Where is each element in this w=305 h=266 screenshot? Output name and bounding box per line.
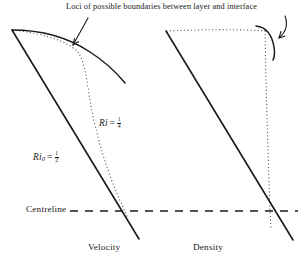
ri-interface-denominator: 4 xyxy=(117,124,121,130)
ri-zero-fraction: 12 xyxy=(55,151,59,163)
centreline-label: Centreline xyxy=(26,205,66,214)
density-top-dotted-line xyxy=(167,30,265,31)
ri-interface-symbol: Ri xyxy=(99,118,108,128)
caption-arrow-left xyxy=(73,18,88,45)
ri-zero-annotation: Ri0=12 xyxy=(33,151,59,163)
panel-label-density: Density xyxy=(193,243,223,252)
figure-root: Loci of possible boundaries between laye… xyxy=(0,0,305,266)
panel-label-velocity: Velocity xyxy=(88,243,120,252)
ri-zero-denominator: 2 xyxy=(55,158,59,164)
density-profile-line xyxy=(166,31,293,240)
ri-interface-fraction: 14 xyxy=(117,117,121,129)
figure-caption: Loci of possible boundaries between laye… xyxy=(66,3,257,11)
ri-zero-symbol: Ri xyxy=(33,152,42,162)
ri-interface-annotation: Ri=14 xyxy=(99,117,121,129)
figure-linework xyxy=(0,0,305,266)
ri-zero-equals: = xyxy=(45,152,55,162)
ri-interface-equals: = xyxy=(108,118,118,128)
